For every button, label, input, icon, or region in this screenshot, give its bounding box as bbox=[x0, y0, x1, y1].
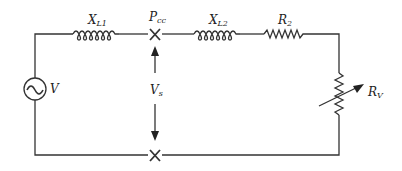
wire-right-bottom bbox=[162, 115, 339, 155]
label-v: V bbox=[50, 82, 60, 96]
label-xl2: XL2 bbox=[208, 13, 228, 28]
label-vs: Vs bbox=[150, 83, 163, 98]
variable-resistor-rv-icon bbox=[335, 73, 343, 115]
inductor-xl1-icon bbox=[73, 31, 119, 40]
variable-arrowhead-icon bbox=[353, 84, 364, 93]
variable-arrow-icon bbox=[319, 86, 360, 106]
vs-arrowhead-down-icon bbox=[151, 131, 159, 141]
circuit-diagram: XL1 Pcc XL2 R2 RV V Vs bbox=[0, 0, 402, 171]
bottom-node-icon bbox=[150, 150, 160, 161]
resistor-r2-icon bbox=[264, 30, 306, 38]
pcc-node-icon bbox=[150, 29, 160, 40]
label-xl1: XL1 bbox=[87, 13, 107, 28]
wire-right-top bbox=[306, 34, 339, 73]
inductor-xl2-icon bbox=[194, 31, 240, 40]
label-rv: RV bbox=[367, 85, 384, 100]
label-pcc: Pcc bbox=[148, 10, 167, 25]
sine-wave-icon bbox=[27, 86, 43, 94]
label-r2: R2 bbox=[277, 13, 292, 28]
vs-arrowhead-up-icon bbox=[151, 46, 159, 56]
wire-left-top bbox=[35, 34, 73, 78]
wire-bottom-left bbox=[35, 100, 148, 155]
